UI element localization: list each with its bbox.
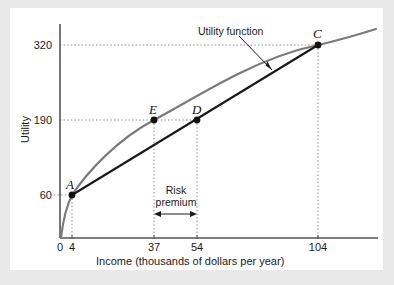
point-label-a: A	[66, 178, 74, 191]
point-label-e: E	[149, 103, 157, 116]
utility-function-curve	[61, 29, 376, 238]
data-point-c[interactable]	[315, 42, 322, 49]
figure-page: 320 190 60 Utility 0 4 37 54 104 Income …	[0, 0, 394, 285]
point-label-d: D	[192, 103, 201, 116]
risk-premium-arrowhead-left	[154, 211, 161, 217]
risk-premium-line-2: premium	[156, 196, 197, 208]
data-point-d[interactable]	[194, 117, 201, 124]
y-tick-label-320: 320	[16, 40, 52, 51]
x-axis-title: Income (thousands of dollars per year)	[96, 256, 284, 267]
x-tick-label-104: 104	[305, 242, 331, 253]
y-axis-title: Utility	[20, 116, 31, 143]
y-tick-label-60: 60	[16, 190, 52, 201]
utility-function-callout-arrowhead	[266, 62, 273, 71]
risk-premium-line-1: Risk	[166, 184, 186, 196]
data-point-e[interactable]	[151, 117, 158, 124]
x-tick-label-37: 37	[144, 242, 164, 253]
x-tick-label-54: 54	[187, 242, 207, 253]
data-point-a[interactable]	[69, 192, 76, 199]
utility-function-callout-label: Utility function	[198, 26, 263, 37]
utility-function-chart	[10, 8, 383, 270]
figure-card: 320 190 60 Utility 0 4 37 54 104 Income …	[10, 8, 383, 270]
point-label-c: C	[313, 27, 322, 40]
risk-premium-label: Risk premium	[145, 184, 207, 208]
risk-premium-arrowhead-right	[190, 211, 197, 217]
x-tick-label-4: 4	[62, 242, 82, 253]
